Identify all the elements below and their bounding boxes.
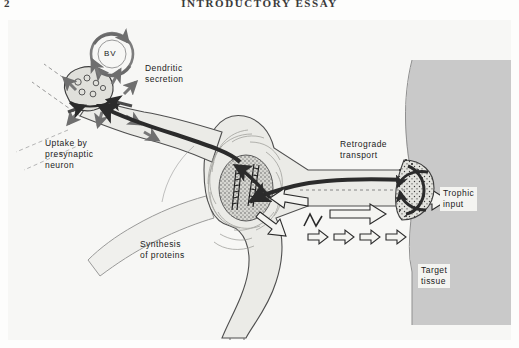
label-synthesis-of-proteins: Synthesis of proteins (140, 239, 185, 261)
label-target-tissue: Target tissue (418, 264, 450, 288)
label-blood-vessel: BV (104, 48, 116, 59)
label-trophic-input: Trophic input (440, 187, 477, 211)
nucleus (219, 155, 273, 221)
page-canvas: 2 INTRODUCTORY ESSAY (0, 0, 519, 348)
figure-plate: BV Dendritic secretion Uptake by presyna… (8, 20, 511, 340)
label-retrograde-transport: Retrograde transport (340, 139, 387, 161)
label-uptake-presynaptic: Uptake by presynaptic neuron (45, 138, 93, 171)
diagram-artwork (8, 20, 511, 340)
label-dendritic-secretion: Dendritic secretion (145, 63, 184, 85)
running-head: INTRODUCTORY ESSAY (0, 0, 519, 9)
